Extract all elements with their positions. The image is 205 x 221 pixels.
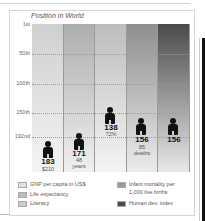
right-divider	[199, 38, 200, 221]
person-icon	[42, 141, 54, 158]
person-icon	[135, 118, 147, 135]
person-icon	[167, 118, 179, 135]
rank-annotation: 72%	[95, 131, 127, 138]
y-tick-192nd: 192nd	[10, 133, 30, 139]
y-tick-150th: 150th	[10, 109, 30, 115]
legend-swatch-literacy	[18, 201, 27, 207]
rank-annotation-unit: deaths	[126, 150, 158, 157]
legend-label-literacy: Literacy	[30, 200, 49, 206]
legend-label-gnp: GNP per capita in US$	[30, 181, 86, 187]
right-edge-bar	[202, 38, 205, 221]
column-literacy	[95, 24, 127, 172]
gridline-100th	[32, 84, 190, 85]
rank-value: 183	[32, 157, 64, 166]
rank-value: 156	[158, 135, 190, 144]
person-icon	[104, 107, 116, 124]
rank-value: 156	[126, 135, 158, 144]
rank-annotation: $210	[32, 166, 64, 173]
gridline-50th	[32, 54, 190, 55]
person-icon	[73, 133, 85, 150]
y-tick-1st: 1st	[10, 21, 30, 27]
plot-area	[32, 24, 190, 172]
legend-label-infant-mortality-2: 1,000 live births	[129, 189, 168, 195]
legend-label-infant-mortality: Infant mortality per	[129, 181, 175, 187]
legend-swatch-human-dev-index	[117, 201, 126, 207]
legend-swatch-life-expectancy	[18, 192, 27, 198]
y-tick-100th: 100th	[10, 80, 30, 86]
legend-swatch-infant-mortality	[117, 182, 126, 188]
legend-label-human-dev-index: Human dev. index	[129, 200, 173, 206]
chart-title: Position in World	[31, 12, 84, 19]
y-tick-50th: 50th	[10, 50, 30, 56]
rank-annotation-unit: years	[63, 163, 95, 170]
legend-swatch-gnp	[18, 182, 27, 188]
column-human-dev-index	[158, 24, 190, 172]
top-divider	[0, 3, 190, 4]
legend-label-life-expectancy: Life expectancy	[30, 191, 68, 197]
